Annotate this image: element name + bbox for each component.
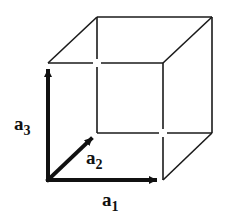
unit-cell-diagram: a3 a2 a1	[0, 0, 225, 213]
edge-diag-top-right	[163, 17, 212, 63]
label-a2: a2	[86, 148, 103, 167]
edge-diag-top-left	[48, 17, 97, 63]
label-a1: a1	[102, 190, 119, 209]
vector-a2-arrow	[48, 139, 91, 180]
cube-drawing	[0, 0, 225, 213]
edge-diag-bottom-right	[163, 133, 212, 180]
label-a3: a3	[14, 114, 31, 133]
